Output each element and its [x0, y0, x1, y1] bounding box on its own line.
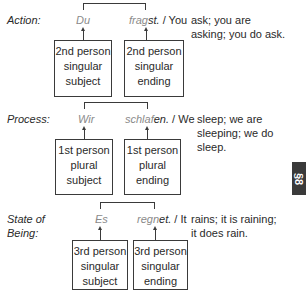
bracket-connector [84, 102, 148, 109]
box-line: 2nd person [55, 44, 111, 59]
subject-box: 2nd person singular subject [54, 40, 112, 97]
box-line: plural [56, 158, 112, 173]
box-line: singular [134, 259, 187, 274]
translation-line: it does rain. [191, 226, 277, 240]
subject-pronoun: Wir [78, 112, 94, 126]
translation-lead: / We [172, 113, 194, 125]
box-line: 1st person [56, 143, 112, 158]
verb-stem: frag [129, 14, 148, 26]
translation-lead: / It [174, 213, 186, 225]
verb-ending: st. [148, 14, 160, 26]
box-line: subject [55, 74, 111, 89]
translation-line: sleep. [197, 140, 273, 154]
ending-box: 3rd person singular ending [133, 240, 188, 290]
row-label: Action: [7, 13, 41, 27]
translation: ask; you are asking; you do ask. [191, 13, 285, 41]
translation-line: ask; you are [191, 13, 285, 27]
verb-form: schlafen. / We [125, 112, 195, 126]
ending-box: 2nd person singular ending [124, 40, 184, 97]
label-line: Being: [7, 226, 45, 240]
subject-box: 3rd person singular subject [72, 240, 128, 290]
label-line: State of [7, 212, 45, 226]
arrow-shaft [100, 229, 101, 240]
verb-ending: et. [159, 213, 171, 225]
bracket-connector [83, 3, 146, 10]
box-line: ending [134, 274, 187, 289]
verb-ending: en. [154, 113, 169, 125]
verb-form: regnet. / It [137, 212, 187, 226]
box-line: ending [125, 173, 180, 188]
translation-line: asking; you do ask. [191, 27, 285, 41]
verb-stem: regn [137, 213, 159, 225]
label-line: Process: [7, 113, 50, 125]
box-line: 2nd person [125, 44, 183, 59]
arrow-shaft [146, 30, 147, 40]
translation-line: rains; it is raining; [191, 212, 277, 226]
box-line: singular [55, 59, 111, 74]
verb-form: fragst. / You [129, 13, 187, 27]
arrow-shaft [84, 129, 85, 139]
box-line: plural [125, 158, 180, 173]
subject-box: 1st person plural subject [55, 139, 113, 195]
row-label: State of Being: [7, 212, 45, 240]
box-line: subject [56, 173, 112, 188]
box-line: 1st person [125, 143, 180, 158]
subject-pronoun: Du [76, 13, 90, 27]
verb-stem: schlaf [125, 113, 154, 125]
section-tab: §8 [292, 162, 306, 195]
section-tab-label: §8 [293, 172, 305, 184]
arrow-shaft [83, 30, 84, 40]
arrow-shaft [155, 229, 156, 240]
box-line: singular [125, 59, 183, 74]
label-line: Action: [7, 14, 41, 26]
box-line: singular [73, 259, 127, 274]
translation-line: sleeping; we do [197, 126, 273, 140]
translation-line: sleep; we are [197, 112, 273, 126]
translation: rains; it is raining; it does rain. [191, 212, 277, 240]
box-line: 3rd person [134, 244, 187, 259]
ending-box: 1st person plural ending [124, 139, 181, 195]
row-label: Process: [7, 112, 50, 126]
box-line: ending [125, 74, 183, 89]
box-line: 3rd person [73, 244, 127, 259]
box-line: subject [73, 274, 127, 289]
bracket-connector [100, 202, 155, 209]
subject-pronoun: Es [95, 212, 108, 226]
arrow-shaft [147, 129, 148, 139]
translation: sleep; we are sleeping; we do sleep. [197, 112, 273, 154]
translation-lead: / You [163, 14, 187, 26]
